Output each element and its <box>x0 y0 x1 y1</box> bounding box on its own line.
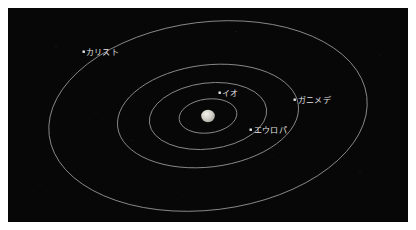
moon-marker-callisto[interactable] <box>83 51 85 53</box>
moon-label-europa: エウロパ <box>254 126 287 135</box>
moon-marker-ganymede[interactable] <box>294 99 296 101</box>
orbit-diagram: カリスト イオ ガニメデ エウロパ <box>8 8 408 222</box>
moon-marker-europa[interactable] <box>250 129 252 131</box>
jupiter-disk <box>201 110 215 122</box>
sky-panel: カリスト イオ ガニメデ エウロパ <box>8 8 408 222</box>
moon-label-io: イオ <box>222 89 238 98</box>
figure-frame: カリスト イオ ガニメデ エウロパ <box>0 0 416 230</box>
moon-label-callisto: カリスト <box>86 48 119 57</box>
moon-label-ganymede: ガニメデ <box>298 95 331 105</box>
moon-marker-io[interactable] <box>219 92 221 94</box>
